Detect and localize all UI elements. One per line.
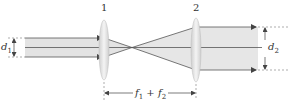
d1-sub: 1: [7, 47, 11, 55]
separation-label: f1 + f2: [135, 88, 166, 102]
f2-sub: 2: [162, 93, 166, 101]
lens-1: [99, 20, 109, 100]
lens-2-label: 2: [193, 3, 199, 13]
input-beam: [25, 38, 132, 57]
d1-label: d1: [1, 42, 12, 56]
lens-1-label: 1: [101, 3, 107, 13]
lens-2: [191, 18, 201, 100]
beam-expander-diagram: 1 2 d1 d2 f1 + f2: [0, 0, 288, 107]
plus-sign: +: [143, 87, 158, 98]
d2-sub: 2: [274, 47, 278, 55]
d2-label: d2: [268, 42, 279, 56]
